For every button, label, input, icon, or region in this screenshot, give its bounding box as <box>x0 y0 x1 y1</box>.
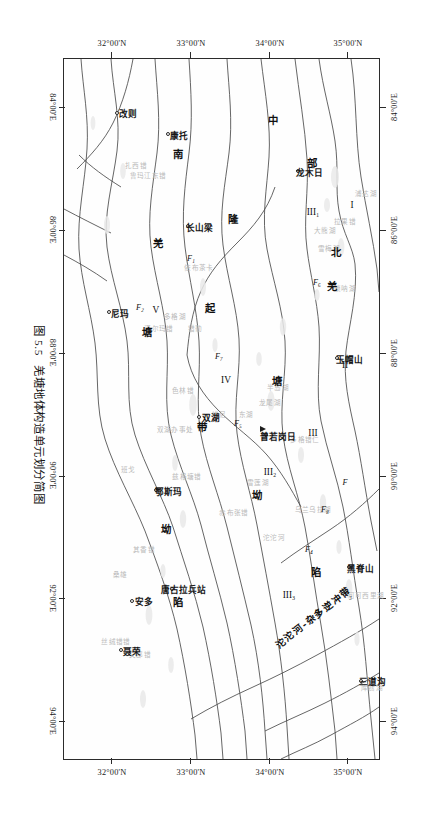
lon-label: 94°00'E <box>390 707 399 735</box>
caption-number: 图 5.5 <box>33 325 45 356</box>
lat-tick-left <box>190 52 191 58</box>
lon-tick-top <box>380 476 386 477</box>
figure-stage: 84°00'E84°00'E86°00'E86°00'E88°00'E88°00… <box>0 0 423 829</box>
lat-tick-left <box>111 52 112 58</box>
lon-tick-top <box>380 353 386 354</box>
city-marker <box>119 648 123 652</box>
lon-label: 92°00'E <box>48 584 57 612</box>
lat-label: 34°00'N <box>255 768 284 777</box>
lon-label: 92°00'E <box>390 584 399 612</box>
lon-label: 90°00'E <box>48 462 57 490</box>
lon-tick-bottom <box>59 598 65 599</box>
lon-tick-bottom <box>59 721 65 722</box>
lat-label: 33°00'N <box>177 768 206 777</box>
lon-tick-bottom <box>59 230 65 231</box>
lon-label: 88°00'E <box>48 339 57 367</box>
caption-title: 羌塘地体构造单元划分简图 <box>32 365 46 504</box>
peak-marker <box>260 426 266 432</box>
city-marker <box>115 111 119 115</box>
lon-label: 84°00'E <box>48 93 57 121</box>
lat-label: 32°00'N <box>98 768 127 777</box>
map-canvas <box>64 59 379 759</box>
lon-label: 86°00'E <box>390 216 399 244</box>
lat-tick-right <box>269 758 270 764</box>
lat-tick-right <box>190 758 191 764</box>
lon-tick-top <box>380 598 386 599</box>
lon-tick-bottom <box>59 476 65 477</box>
lon-label: 88°00'E <box>390 339 399 367</box>
lon-label: 86°00'E <box>48 216 57 244</box>
map-frame <box>63 58 380 760</box>
lat-label: 33°00'N <box>177 39 206 48</box>
lon-tick-top <box>380 107 386 108</box>
map-linework <box>64 59 379 759</box>
lat-label: 34°00'N <box>255 39 284 48</box>
lat-label: 35°00'N <box>334 39 363 48</box>
lon-tick-bottom <box>59 353 65 354</box>
city-marker <box>359 679 363 683</box>
lat-tick-right <box>111 758 112 764</box>
city-marker <box>296 169 300 173</box>
lat-tick-left <box>348 52 349 58</box>
lat-label: 32°00'N <box>98 39 127 48</box>
lon-label: 84°00'E <box>390 93 399 121</box>
city-marker <box>186 224 190 228</box>
lon-tick-top <box>380 721 386 722</box>
lon-tick-top <box>380 230 386 231</box>
lon-tick-bottom <box>59 107 65 108</box>
lat-label: 35°00'N <box>334 768 363 777</box>
lat-tick-left <box>269 52 270 58</box>
lon-label: 90°00'E <box>390 462 399 490</box>
lat-tick-right <box>348 758 349 764</box>
city-marker <box>170 587 174 591</box>
lon-label: 94°00'E <box>48 707 57 735</box>
figure-caption: 图 5.5羌塘地体构造单元划分简图 <box>32 0 48 829</box>
